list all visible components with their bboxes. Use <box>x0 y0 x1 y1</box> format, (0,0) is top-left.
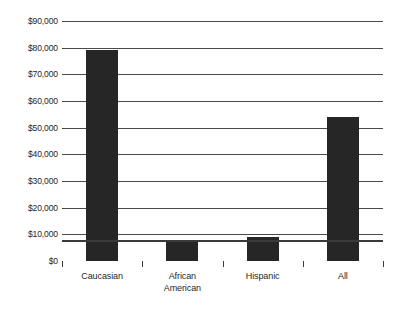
y-axis-tick-label: $20,000 <box>0 203 58 212</box>
x-axis-category-label: Caucasian <box>62 271 142 283</box>
y-axis-tick-label: $0 <box>0 257 58 266</box>
x-axis-category-label: African American <box>142 271 222 294</box>
gridline <box>62 48 383 49</box>
x-axis-tick <box>303 261 304 267</box>
x-axis-tick <box>142 261 143 267</box>
x-axis-line <box>62 240 383 242</box>
plot-area <box>62 21 383 261</box>
y-axis-tick-label: $50,000 <box>0 123 58 132</box>
y-axis-tick-label: $10,000 <box>0 230 58 239</box>
gridline <box>62 21 383 22</box>
y-axis-tick-label: $90,000 <box>0 17 58 26</box>
x-axis-category-label: Hispanic <box>223 271 303 283</box>
y-axis-tick-label: $70,000 <box>0 70 58 79</box>
y-axis-tick-label: $40,000 <box>0 150 58 159</box>
x-axis-tick <box>223 261 224 267</box>
bar-chart: $0$10,000$20,000$30,000$40,000$50,000$60… <box>0 0 403 312</box>
x-axis-tick <box>383 261 384 267</box>
bar <box>166 242 198 261</box>
y-axis-tick-label: $80,000 <box>0 43 58 52</box>
x-axis-tick <box>62 261 63 267</box>
y-axis-tick-label: $60,000 <box>0 97 58 106</box>
y-axis-tick-label: $30,000 <box>0 177 58 186</box>
x-axis-category-label: All <box>303 271 383 283</box>
bar <box>86 50 118 261</box>
